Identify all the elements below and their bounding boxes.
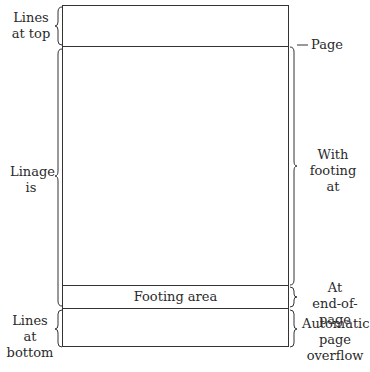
label-line: at <box>305 179 361 195</box>
label-line: page <box>302 332 368 348</box>
label-line: Automatic <box>302 316 368 332</box>
linage-is-label: Linage is <box>10 164 52 196</box>
label-line: footing <box>305 163 361 179</box>
label-line: With <box>305 147 361 163</box>
label-line: Lines at <box>6 313 54 345</box>
label-line: is <box>10 180 52 196</box>
with-footing-at-label: With footing at <box>305 147 361 195</box>
label-line: Linage <box>10 164 52 180</box>
page-label: Page <box>311 37 343 53</box>
label-line: overflow <box>302 348 368 364</box>
label-line: at top <box>10 26 52 42</box>
lines-at-top-label: Lines at top <box>10 10 52 42</box>
label-line: bottom <box>6 345 54 361</box>
lines-at-bottom-label: Lines at bottom <box>6 313 54 361</box>
automatic-page-overflow-label: Automatic page overflow <box>302 316 368 364</box>
label-line: At <box>300 280 370 296</box>
label-line: Lines <box>10 10 52 26</box>
